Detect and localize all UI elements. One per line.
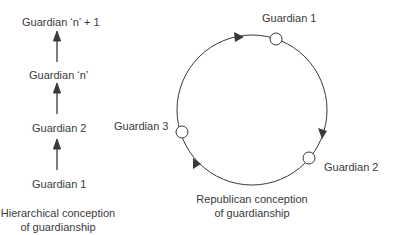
hierarchy-arrows	[54, 31, 61, 170]
guardian-node-3	[176, 126, 188, 138]
arrow-clockwise-icon	[234, 32, 244, 42]
arrow-clockwise-icon	[318, 128, 327, 139]
republican-label-guardian-3: Guardian 3	[114, 120, 168, 133]
hierarchy-label-guardian-2: Guardian 2	[32, 122, 86, 135]
hierarchy-caption: Hierarchical conception of guardianship	[0, 206, 116, 234]
republican-caption-line2: of guardianship	[194, 206, 310, 220]
hierarchy-caption-line2: of guardianship	[0, 220, 116, 234]
arrow-up-icon	[54, 31, 61, 62]
guardian-node-2	[303, 152, 315, 164]
republican-cycle	[176, 32, 327, 185]
hierarchy-label-n-plus-1: Guardian ‘n’ + 1	[22, 16, 100, 29]
hierarchy-caption-line1: Hierarchical conception	[0, 206, 116, 220]
hierarchy-label-guardian-1: Guardian 1	[32, 178, 86, 191]
republican-caption: Republican conception of guardianship	[194, 192, 310, 220]
arrow-up-icon	[54, 139, 61, 170]
hierarchy-label-n: Guardian ‘n’	[29, 69, 88, 82]
guardian-node-1	[270, 33, 282, 45]
arrow-clockwise-icon	[193, 158, 201, 169]
republican-caption-line1: Republican conception	[194, 192, 310, 206]
arrow-up-icon	[54, 83, 61, 114]
republican-label-guardian-1: Guardian 1	[262, 12, 316, 25]
republican-label-guardian-2: Guardian 2	[324, 161, 378, 174]
